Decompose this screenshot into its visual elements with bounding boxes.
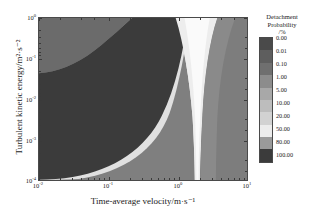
colorbar-swatch	[260, 63, 272, 75]
x-tick-minor	[244, 178, 245, 180]
y-tick-minor	[39, 96, 41, 97]
x-tick-top	[60, 18, 61, 20]
y-tick-minor	[39, 89, 41, 90]
y-tick-minor	[39, 130, 41, 131]
colorbar-swatch	[260, 100, 272, 112]
y-tick-label-0: 100	[27, 15, 36, 22]
y-tick-minor	[39, 166, 41, 167]
x-tick-minor	[239, 178, 240, 180]
legend-body: 0.00 0.01 0.10 1.00 5.00 10.00 20.00 50.…	[256, 37, 316, 163]
x-tick-minor	[151, 178, 152, 180]
y-tick-exponent: -1	[32, 54, 36, 59]
y-tick-label-2: 10-2	[26, 97, 36, 104]
y-tick-minor	[39, 134, 41, 135]
y-tick-minor	[39, 84, 41, 85]
y-tick-minor	[39, 43, 41, 44]
x-tick-exponent: 0	[180, 181, 182, 186]
x-tick-minor	[99, 178, 100, 180]
y-tick-minor	[39, 71, 41, 72]
x-tick-exponent: -2	[39, 181, 43, 186]
x-tick-top	[179, 18, 180, 21]
y-tick-right	[245, 89, 247, 90]
x-tick-minor	[88, 178, 89, 180]
x-tick-minor	[104, 178, 105, 180]
colorbar-label: 0.10	[276, 61, 287, 67]
colorbar-label: 20.00	[276, 113, 290, 119]
x-tick-top	[151, 18, 152, 20]
x-tick-top	[109, 18, 110, 21]
y-tick-minor	[39, 178, 41, 179]
x-tick-major	[109, 177, 110, 180]
y-tick-major	[39, 18, 42, 19]
x-axis-title: Time-average velocity/m·s⁻¹	[38, 196, 248, 206]
y-tick-minor	[39, 171, 41, 172]
x-tick-minor	[228, 178, 229, 180]
x-tick-minor	[142, 178, 143, 180]
colorbar-swatch	[260, 112, 272, 124]
x-tick-exponent: -1	[109, 181, 113, 186]
colorbar-swatch	[260, 88, 272, 100]
y-tick-exponent: -3	[32, 136, 36, 141]
y-tick-right	[244, 100, 247, 101]
y-tick-exponent: 0	[34, 13, 36, 18]
colorbar-swatch	[260, 125, 272, 137]
x-tick-top	[81, 18, 82, 20]
y-tick-major	[39, 100, 42, 101]
colorbar-label: 0.00	[276, 35, 287, 41]
x-tick-label-3: 101	[243, 183, 252, 190]
x-tick-minor	[94, 178, 95, 180]
x-tick-minor	[158, 178, 159, 180]
x-tick-minor	[200, 178, 201, 180]
colorbar-label: 5.00	[276, 87, 287, 93]
colorbar-swatch	[260, 38, 272, 50]
x-tick-minor	[169, 178, 170, 180]
x-tick-minor	[221, 178, 222, 180]
y-tick-right	[244, 59, 247, 60]
colorbar-swatch	[260, 75, 272, 87]
colorbar-legend: Detachment Probability /% 0.00 0.01 0.10	[256, 13, 316, 163]
y-tick-right	[244, 18, 247, 19]
colorbar-swatch	[260, 50, 272, 62]
y-tick-minor	[39, 175, 41, 176]
y-tick-right	[245, 78, 247, 79]
y-tick-label-3: 10-3	[26, 138, 36, 145]
y-tick-right	[245, 130, 247, 131]
x-tick-minor	[164, 178, 165, 180]
colorbar-swatch	[260, 137, 272, 149]
y-tick-minor	[39, 78, 41, 79]
y-tick-major	[39, 59, 42, 60]
x-tick-minor	[234, 178, 235, 180]
y-tick-right	[245, 48, 247, 49]
y-tick-exponent: -4	[32, 176, 36, 181]
colorbar-labels: 0.00 0.01 0.10 1.00 5.00 10.00 20.00 50.…	[276, 33, 316, 167]
x-tick-minor	[81, 178, 82, 180]
y-tick-minor	[39, 48, 41, 49]
x-tick-minor	[212, 178, 213, 180]
y-tick-label-1: 10-1	[26, 56, 36, 63]
y-tick-minor	[39, 55, 41, 56]
colorbar-label: 80.00	[276, 139, 290, 145]
x-tick-top	[200, 18, 201, 20]
y-tick-minor	[39, 30, 41, 31]
y-tick-exponent: -2	[32, 95, 36, 100]
y-tick-minor	[39, 160, 41, 161]
legend-title-line1: Detachment	[258, 13, 306, 21]
legend-title-line2: Probability	[258, 21, 306, 29]
y-axis-title: Turbulent kinetic energy/m²·s⁻²	[14, 12, 24, 182]
y-tick-right	[245, 37, 247, 38]
y-tick-minor	[39, 37, 41, 38]
x-tick-minor	[130, 178, 131, 180]
x-tick-label-2: 100	[174, 183, 183, 190]
chart-figure: 10-2 10-1 100 101 100 10-1 10-2 10-3 10-…	[0, 0, 316, 224]
y-tick-right	[244, 141, 247, 142]
x-tick-top	[221, 18, 222, 20]
colorbar-gradient	[259, 37, 273, 163]
colorbar-label: 1.00	[276, 74, 287, 80]
y-tick-minor	[39, 153, 41, 154]
y-tick-minor	[39, 125, 41, 126]
plot-area	[38, 17, 248, 181]
colorbar-label: 0.01	[276, 48, 287, 54]
x-tick-minor	[60, 178, 61, 180]
x-tick-top	[94, 18, 95, 20]
y-tick-minor	[39, 93, 41, 94]
